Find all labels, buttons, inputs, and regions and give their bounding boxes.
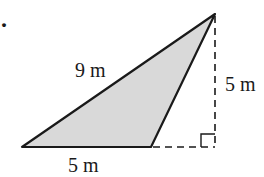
hypotenuse-label: 9 m bbox=[75, 59, 106, 81]
right-angle-marker bbox=[201, 134, 215, 147]
base-label: 5 m bbox=[68, 154, 99, 176]
obtuse-triangle bbox=[22, 14, 215, 147]
height-label: 5 m bbox=[225, 73, 256, 95]
triangle-diagram: . 9 m 5 m 5 m bbox=[0, 0, 264, 177]
problem-marker: . bbox=[1, 6, 7, 32]
